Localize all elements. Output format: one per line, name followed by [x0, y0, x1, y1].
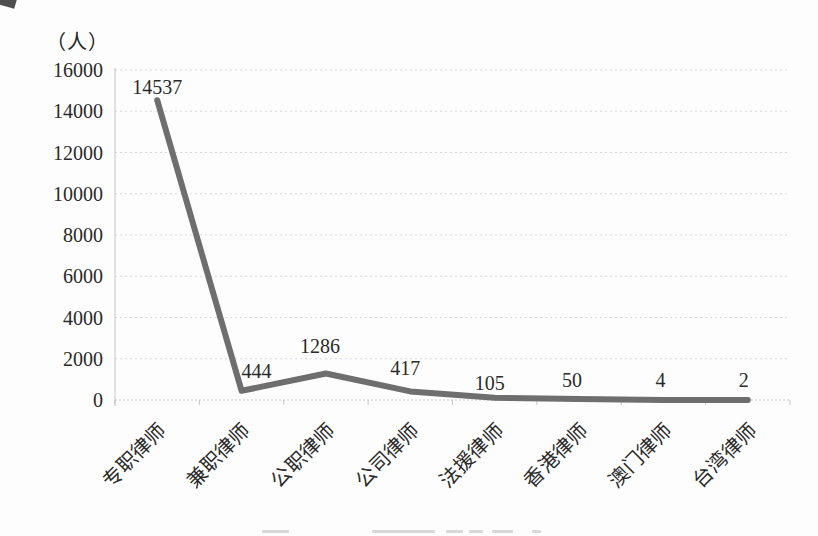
y-tick-label: 2000: [63, 348, 103, 370]
data-label: 1286: [300, 335, 340, 357]
data-label: 444: [242, 360, 272, 382]
cropped-caption-fragment: [262, 530, 289, 533]
cropped-caption-fragment: [469, 530, 483, 533]
cropped-caption-fragment: [492, 530, 513, 533]
x-category-label: 公职律师: [267, 419, 339, 491]
x-category-label: 专职律师: [98, 419, 170, 491]
y-tick-label: 14000: [53, 100, 103, 122]
data-label: 105: [475, 372, 505, 394]
cropped-caption-fragment: [372, 530, 435, 533]
data-line: [157, 100, 748, 400]
scanned-line-chart: （人） 020004000600080001000012000140001600…: [0, 0, 818, 536]
x-category-label: 公司律师: [351, 419, 423, 491]
y-tick-label: 6000: [63, 265, 103, 287]
y-tick-label: 16000: [53, 59, 103, 81]
y-tick-label: 0: [93, 389, 103, 411]
x-category-label: 澳门律师: [604, 419, 676, 491]
x-category-label: 台湾律师: [689, 419, 761, 491]
data-label: 14537: [132, 76, 182, 98]
y-tick-label: 12000: [53, 142, 103, 164]
y-tick-label: 10000: [53, 183, 103, 205]
cropped-caption-fragment: [532, 530, 541, 533]
data-label: 50: [562, 369, 582, 391]
x-category-label: 兼职律师: [182, 419, 254, 491]
y-tick-label: 8000: [63, 224, 103, 246]
data-label: 417: [390, 357, 420, 379]
x-category-label: 香港律师: [520, 419, 592, 491]
x-category-label: 法援律师: [435, 419, 507, 491]
data-label: 2: [739, 369, 749, 391]
cropped-caption-fragment: [446, 530, 463, 533]
y-tick-label: 4000: [63, 307, 103, 329]
line-chart-canvas: 0200040006000800010000120001400016000145…: [0, 0, 818, 536]
data-label: 4: [655, 369, 665, 391]
